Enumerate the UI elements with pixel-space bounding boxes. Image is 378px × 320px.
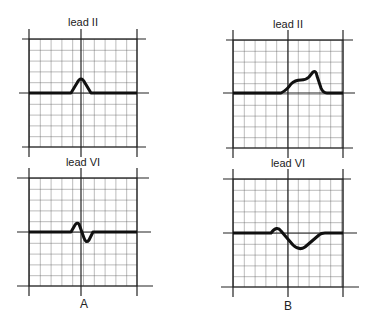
grid-b-lead-vi <box>221 169 359 297</box>
grid-a-lead-ii <box>19 29 149 157</box>
caption-b: B <box>273 299 303 313</box>
caption-a: A <box>69 297 99 311</box>
label-b-lead-vi: lead VI <box>248 157 328 169</box>
grid-a-lead-vi <box>17 168 153 296</box>
label-a-lead-ii: lead II <box>43 16 123 28</box>
label-b-lead-ii: lead II <box>248 18 328 30</box>
label-a-lead-vi: lead VI <box>43 156 123 168</box>
grid-b-lead-ii <box>223 30 355 158</box>
